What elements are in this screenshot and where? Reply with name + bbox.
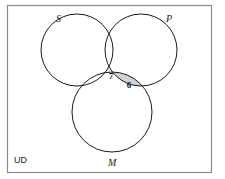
region-count-s-and-p-and-m: 7 [109, 71, 114, 81]
set-label-m: M [107, 157, 117, 168]
circle-set-s [41, 14, 113, 86]
set-label-p: P [165, 13, 172, 24]
venn-diagram-canvas: S P M 7 6 UD [0, 0, 225, 179]
universe-of-discourse-frame [8, 6, 212, 173]
set-label-s: S [56, 13, 61, 24]
region-count-p-and-m-not-s: 6 [127, 80, 132, 90]
venn-diagram-page: S P M 7 6 UD [0, 0, 225, 179]
universe-label: UD [14, 155, 27, 165]
circle-set-m [72, 72, 152, 152]
circle-set-p [105, 14, 177, 86]
